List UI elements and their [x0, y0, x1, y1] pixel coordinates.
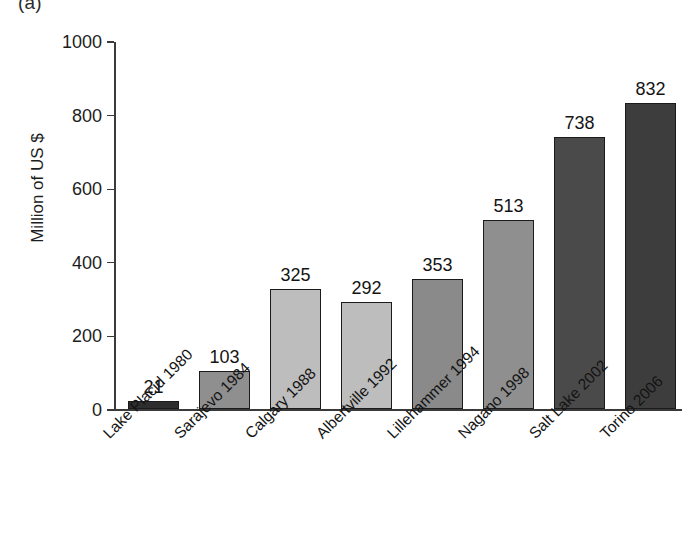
bar-value-label: 832: [613, 80, 688, 98]
bar-value-label: 103: [187, 348, 262, 366]
y-tick-label-600: 600: [0, 180, 102, 198]
figure-panel: (a) Million of US $ 02004006008001000 21…: [0, 0, 692, 537]
panel-letter: (a): [18, 0, 42, 12]
y-tick-1000: [107, 41, 114, 42]
bar-value-label: 325: [258, 266, 333, 284]
bar-value-label: 513: [471, 197, 546, 215]
y-tick-600: [107, 189, 114, 190]
y-tick-label-800: 800: [0, 107, 102, 125]
y-tick-200: [107, 336, 114, 337]
y-tick-0: [107, 409, 114, 410]
bar: [625, 103, 676, 409]
bar-value-label: 292: [329, 279, 404, 297]
y-tick-label-400: 400: [0, 254, 102, 272]
y-tick-label-0: 0: [0, 401, 102, 419]
bar-value-label: 353: [400, 256, 475, 274]
y-tick-label-1000: 1000: [0, 33, 102, 51]
y-tick-label-200: 200: [0, 327, 102, 345]
plot-area: 02004006008001000 2110332529235351373883…: [114, 42, 682, 410]
y-tick-800: [107, 115, 114, 116]
y-tick-400: [107, 262, 114, 263]
y-axis-line: [114, 42, 116, 410]
bar-value-label: 738: [542, 114, 617, 132]
